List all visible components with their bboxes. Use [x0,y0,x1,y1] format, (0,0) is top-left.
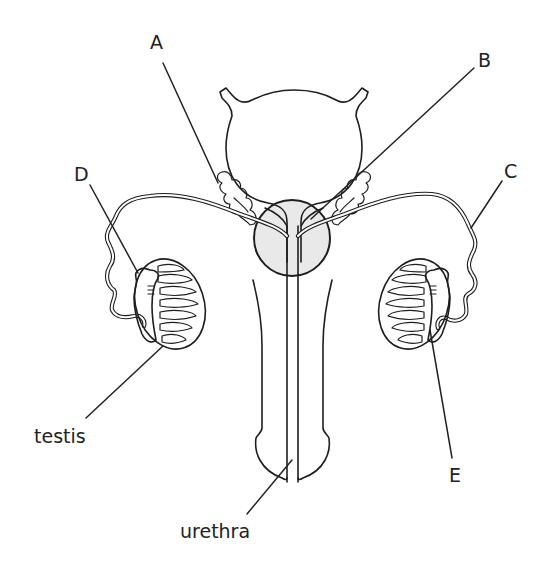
testis-right [367,250,460,359]
label-a: A [150,33,163,52]
label-urethra: urethra [180,522,250,541]
leader-line-urethra [247,460,292,514]
reproductive-system-drawing [0,0,556,570]
leader-line-e [430,330,452,458]
diagram-canvas: A B C D E testis urethra [0,0,556,570]
leader-line-c [471,181,502,228]
label-b: B [478,51,491,70]
label-c: C [504,162,517,181]
label-testis: testis [34,427,86,446]
testis-left [123,250,216,359]
label-e: E [449,466,461,485]
label-d: D [74,165,89,184]
penis [253,280,332,480]
leader-line-testis [86,346,163,418]
leader-line-a [163,63,218,183]
